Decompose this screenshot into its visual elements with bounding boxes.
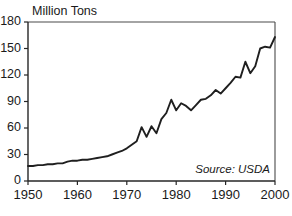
x-tick-label: 2000 — [261, 187, 290, 202]
data-series-line — [28, 37, 275, 166]
y-tick-label: 180 — [0, 14, 21, 28]
line-chart-figure: 0306090120150180 19501960197019801990200… — [0, 0, 292, 216]
y-axis-title: Million Tons — [32, 4, 97, 18]
x-tick-label: 1960 — [63, 187, 92, 202]
y-tick-label: 90 — [7, 94, 21, 108]
x-tick-label: 1970 — [112, 187, 141, 202]
y-tick-label: 0 — [14, 173, 21, 187]
plot-frame — [28, 22, 275, 181]
y-tick-label: 30 — [7, 147, 21, 161]
source-annotation: Source: USDA — [195, 163, 270, 175]
x-tick-label: 1990 — [211, 187, 240, 202]
x-tick-label: 1950 — [14, 187, 43, 202]
x-tick-label: 1980 — [162, 187, 191, 202]
y-tick-label: 150 — [0, 41, 21, 55]
y-tick-labels: 0306090120150180 — [0, 14, 21, 187]
chart-container: 0306090120150180 19501960197019801990200… — [0, 0, 292, 216]
y-tick-label: 60 — [7, 120, 21, 134]
y-tick-label: 120 — [0, 67, 21, 81]
x-tick-labels: 195019601970198019902000 — [14, 187, 290, 202]
